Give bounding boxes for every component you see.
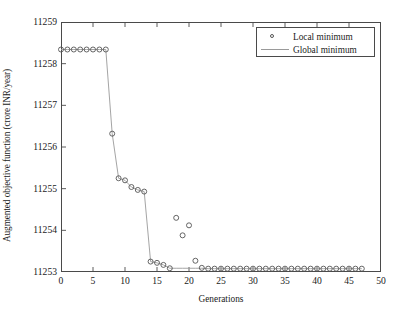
x-tick-label: 20 [174, 275, 204, 286]
x-tick-label: 25 [206, 275, 236, 286]
y-tick-label: 11256 [1, 142, 57, 152]
x-axis-label: Generations [61, 294, 381, 304]
data-point-marker [193, 258, 198, 263]
x-tick-label: 15 [142, 275, 172, 286]
local-minimum-markers [59, 47, 365, 271]
data-point-marker [187, 223, 192, 228]
x-tick-label: 10 [110, 275, 140, 286]
legend-circle-icon [257, 30, 293, 43]
y-tick-label: 11254 [1, 225, 57, 235]
global-minimum-line [61, 50, 362, 269]
y-tick-marks [61, 64, 66, 231]
x-tick-label: 30 [238, 275, 268, 286]
x-tick-label: 35 [270, 275, 300, 286]
data-point-marker [174, 215, 179, 220]
x-tick-label: 45 [334, 275, 364, 286]
x-tick-marks [93, 22, 349, 272]
y-tick-label: 11258 [1, 59, 57, 69]
chart-legend: Local minimum Global minimum [256, 27, 375, 57]
data-point-marker [180, 233, 185, 238]
x-tick-label: 50 [366, 275, 396, 286]
y-tick-label: 11255 [1, 184, 57, 194]
y-tick-label: 11259 [1, 17, 57, 27]
legend-label-local: Local minimum [293, 32, 353, 42]
x-tick-label: 40 [302, 275, 332, 286]
x-tick-label: 5 [78, 275, 108, 286]
legend-label-global: Global minimum [293, 45, 357, 55]
legend-entry-local: Local minimum [257, 30, 374, 43]
legend-entry-global: Global minimum [257, 43, 374, 56]
x-tick-label: 0 [46, 275, 76, 286]
plot-canvas [61, 22, 381, 272]
convergence-chart-figure: Augmented objective function (crore INR/… [0, 0, 397, 315]
legend-line-icon [257, 43, 293, 56]
y-tick-label: 11257 [1, 100, 57, 110]
